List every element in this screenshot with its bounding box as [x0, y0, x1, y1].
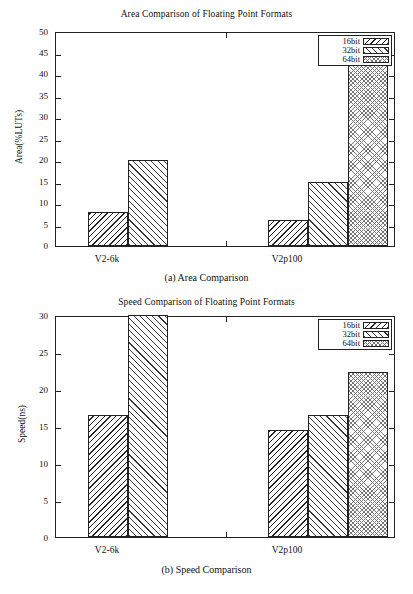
legend-swatch-16bit-icon	[363, 38, 389, 45]
y-tick-mark	[389, 227, 394, 228]
y-tick-mark	[389, 428, 394, 429]
chart-title-area: Area Comparison of Floating Point Format…	[0, 9, 413, 19]
bar-v2-6k-32bit	[128, 160, 168, 246]
panel-speed-comparison: Speed Comparison of Floating Point Forma…	[0, 294, 413, 594]
bar-v2p100-16bit	[268, 430, 308, 537]
y-tick-label: 10	[18, 460, 48, 469]
y-tick-mark	[389, 354, 394, 355]
y-tick-label: 25	[18, 349, 48, 358]
caption-speed-comparison: (b) Speed Comparison	[0, 564, 413, 575]
y-tick-mark	[56, 391, 61, 392]
y-tick-label: 50	[18, 28, 48, 37]
y-tick-label: 5	[18, 221, 48, 230]
y-tick-mark	[56, 55, 61, 56]
bar-v2p100-64bit	[348, 372, 388, 537]
y-tick-mark	[56, 354, 61, 355]
legend-area-chart: 16bit 32bit 64bit	[318, 35, 392, 66]
y-tick-label: 15	[18, 423, 48, 432]
y-tick-mark	[56, 119, 61, 120]
y-tick-label: 5	[18, 497, 48, 506]
legend-swatch-32bit-icon	[363, 47, 389, 54]
y-tick-label: 15	[18, 178, 48, 187]
bar-v2p100-32bit	[308, 182, 348, 247]
y-tick-mark	[56, 76, 61, 77]
y-tick-mark	[389, 141, 394, 142]
y-tick-label: 20	[18, 156, 48, 165]
panel-area-comparison: Area Comparison of Floating Point Format…	[0, 0, 413, 294]
x-tick-mark	[226, 317, 227, 322]
x-tick-mark	[226, 241, 227, 246]
y-tick-label: 35	[18, 92, 48, 101]
y-tick-label: 20	[18, 386, 48, 395]
figure-two-panel-bar-charts: Area Comparison of Floating Point Format…	[0, 0, 413, 594]
x-tick-label-v2-6k: V2-6k	[77, 254, 137, 264]
plot-area-speed-chart: 16bit 32bit 64bit	[55, 316, 395, 538]
x-tick-label-v2p100: V2p100	[257, 254, 317, 264]
chart-title-speed: Speed Comparison of Floating Point Forma…	[0, 297, 413, 307]
y-tick-mark	[389, 391, 394, 392]
legend-swatch-64bit-icon	[363, 56, 389, 63]
legend-swatch-16bit-icon	[363, 322, 389, 329]
y-tick-label: 30	[18, 312, 48, 321]
y-tick-mark	[56, 502, 61, 503]
y-tick-label: 25	[18, 135, 48, 144]
legend-item-64bit: 64bit	[321, 55, 389, 64]
y-tick-mark	[56, 205, 61, 206]
y-tick-mark	[56, 162, 61, 163]
x-tick-mark	[226, 532, 227, 537]
y-tick-mark	[56, 98, 61, 99]
legend-label: 64bit	[343, 339, 360, 348]
y-tick-mark	[56, 428, 61, 429]
y-tick-mark	[389, 184, 394, 185]
bar-v2-6k-32bit	[128, 315, 168, 537]
x-tick-label-v2p100: V2p100	[257, 545, 317, 555]
plot-area-area-chart: 16bit 32bit 64bit	[55, 32, 395, 247]
x-tick-label-v2-6k: V2-6k	[77, 545, 137, 555]
legend-label: 64bit	[343, 55, 360, 64]
y-tick-mark	[389, 119, 394, 120]
y-tick-mark	[56, 184, 61, 185]
x-tick-mark	[226, 33, 227, 38]
y-tick-mark	[56, 465, 61, 466]
bar-v2-6k-16bit	[88, 415, 128, 537]
legend-item-64bit: 64bit	[321, 339, 389, 348]
y-tick-mark	[56, 141, 61, 142]
y-tick-label: 10	[18, 199, 48, 208]
legend-speed-chart: 16bit 32bit 64bit	[318, 319, 392, 350]
y-tick-label: 45	[18, 49, 48, 58]
y-tick-mark	[389, 162, 394, 163]
y-tick-mark	[389, 205, 394, 206]
y-tick-label: 30	[18, 113, 48, 122]
y-tick-mark	[389, 76, 394, 77]
y-tick-mark	[389, 502, 394, 503]
bar-v2p100-32bit	[308, 415, 348, 537]
y-tick-mark	[389, 98, 394, 99]
y-tick-label: 40	[18, 70, 48, 79]
y-tick-label: 0	[18, 534, 48, 543]
legend-swatch-32bit-icon	[363, 331, 389, 338]
bar-v2p100-64bit	[348, 48, 388, 246]
caption-area-comparison: (a) Area Comparison	[0, 272, 413, 283]
y-tick-label: 0	[18, 242, 48, 251]
y-tick-mark	[389, 465, 394, 466]
y-tick-mark	[56, 227, 61, 228]
bar-v2p100-16bit	[268, 220, 308, 246]
bar-v2-6k-16bit	[88, 212, 128, 246]
legend-swatch-64bit-icon	[363, 340, 389, 347]
